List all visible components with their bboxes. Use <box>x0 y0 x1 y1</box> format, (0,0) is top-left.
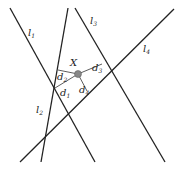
line-l2 <box>41 8 68 162</box>
distance-label-d2: d2 <box>57 71 67 83</box>
distance-label-d1: d1 <box>60 87 70 99</box>
distance-label-d3: d3 <box>92 62 102 74</box>
line-label-l1: l1 <box>28 27 35 39</box>
diagram-canvas: l1l2l3l4d1d2d3d4X <box>0 0 183 169</box>
line-label-l3: l3 <box>90 15 97 27</box>
line-label-l2: l2 <box>36 104 43 116</box>
point-label-x: X <box>69 57 78 68</box>
point-x <box>75 71 82 78</box>
line-label-l4: l4 <box>143 43 150 55</box>
distance-label-d4: d4 <box>79 84 89 96</box>
